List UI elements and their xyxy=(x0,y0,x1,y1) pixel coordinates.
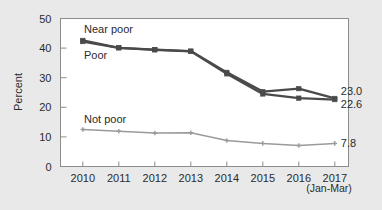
y-axis-title: Percent xyxy=(12,73,24,111)
y-tick-label: 20 xyxy=(39,101,51,113)
y-tick-label: 10 xyxy=(39,131,51,143)
x-tick-label: 2014 xyxy=(215,172,239,184)
series-label-not-poor: Not poor xyxy=(84,113,127,125)
end-value-label-poor: 22.6 xyxy=(341,98,362,110)
end-value-label-not-poor: 7.8 xyxy=(341,137,356,149)
y-tick-label: 30 xyxy=(39,72,51,84)
y-tick-label: 0 xyxy=(45,161,51,173)
y-tick-label: 50 xyxy=(39,13,51,25)
data-point-marker xyxy=(81,39,85,43)
data-point-marker xyxy=(117,46,121,50)
plot-area-frame xyxy=(61,19,349,167)
series-label-poor: Poor xyxy=(84,49,108,61)
x-axis-sub-label: (Jan-Mar) xyxy=(306,182,352,194)
data-point-marker xyxy=(297,96,301,100)
data-point-marker xyxy=(189,49,193,53)
data-point-marker xyxy=(153,48,157,52)
data-point-marker xyxy=(297,86,301,90)
x-tick-label: 2010 xyxy=(71,172,95,184)
data-point-marker xyxy=(261,92,265,96)
data-point-marker xyxy=(333,97,337,101)
y-tick-label: 40 xyxy=(39,42,51,54)
end-value-label-near-poor: 23.0 xyxy=(341,85,362,97)
series-label-near-poor: Near poor xyxy=(84,23,133,35)
line-chart: 01020304050 Percent 20102011201220132014… xyxy=(0,0,382,210)
x-tick-label: 2011 xyxy=(107,172,131,184)
x-tick-label: 2015 xyxy=(251,172,275,184)
x-tick-label: 2012 xyxy=(143,172,167,184)
data-point-marker xyxy=(225,72,229,76)
x-tick-label: 2013 xyxy=(179,172,203,184)
chart-container: 01020304050 Percent 20102011201220132014… xyxy=(0,0,382,210)
